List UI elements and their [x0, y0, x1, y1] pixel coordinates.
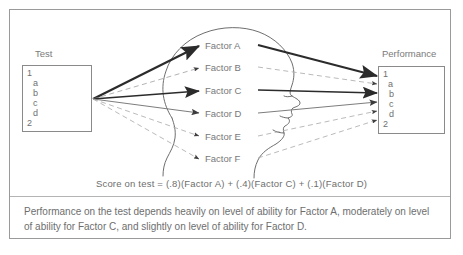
- figure-container: Test Performance 1 a b c d 2 1 a b c d 2…: [0, 0, 463, 255]
- link-factor-a-performance: [258, 45, 377, 76]
- score-formula: Score on test = (.8)(Factor A) + (.4)(Fa…: [0, 178, 463, 189]
- test-row-label-a: a: [33, 79, 38, 88]
- caption-divider: [10, 196, 450, 197]
- link-test-factor-d: [93, 99, 199, 113]
- test-row-label-b: b: [33, 89, 38, 98]
- test-label: Test: [35, 48, 52, 59]
- performance-row-label-a: a: [388, 80, 393, 89]
- factor-label-f: Factor F: [205, 153, 240, 164]
- test-row-label-d: d: [33, 109, 38, 118]
- link-factor-d-performance: [258, 102, 377, 113]
- link-factor-c-performance: [258, 90, 377, 93]
- factor-label-e: Factor E: [205, 131, 241, 142]
- link-factor-e-performance: [258, 111, 377, 136]
- figure-caption: Performance on the test depends heavily …: [24, 205, 438, 234]
- performance-row-label-c: c: [389, 100, 394, 109]
- test-row-label-1: 1: [27, 69, 32, 78]
- performance-row-label-d: d: [389, 110, 394, 119]
- link-factor-b-performance: [258, 67, 377, 84]
- performance-row-label-2: 2: [383, 120, 388, 129]
- performance-row-label-b: b: [389, 90, 394, 99]
- factor-label-a: Factor A: [205, 40, 240, 51]
- link-test-factor-f: [93, 99, 199, 159]
- test-row-label-c: c: [33, 99, 38, 108]
- performance-row-label-1: 1: [383, 70, 388, 79]
- link-factor-f-performance: [258, 120, 377, 158]
- factor-label-b: Factor B: [205, 62, 241, 73]
- test-row-label-2: 2: [27, 119, 32, 128]
- performance-label: Performance: [382, 48, 436, 59]
- factor-label-c: Factor C: [205, 85, 241, 96]
- link-test-factor-e: [93, 99, 199, 136]
- factor-label-d: Factor D: [205, 108, 241, 119]
